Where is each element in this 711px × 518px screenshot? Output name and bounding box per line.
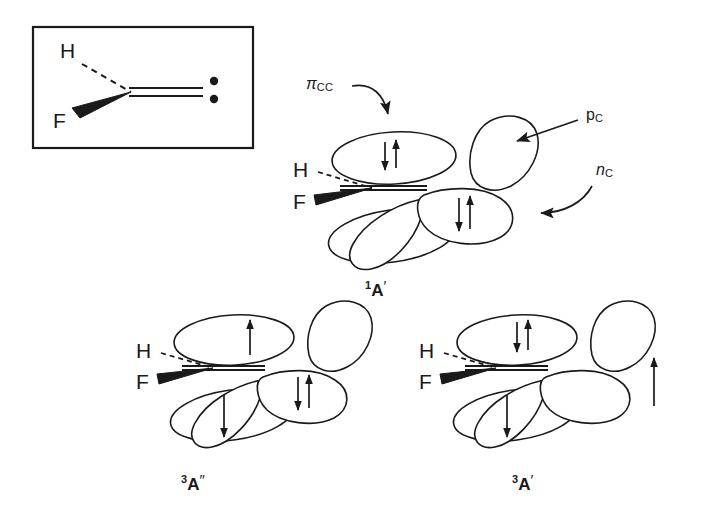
s2-atom-F: F (136, 371, 149, 392)
structure-1A-prime-artwork (314, 116, 538, 271)
inset-atom-F: F (53, 110, 66, 131)
s1-prime: ′ (383, 277, 385, 294)
pi-symbol: π (306, 75, 317, 92)
s2-prime: ″ (199, 471, 204, 488)
figure-artwork (0, 0, 711, 518)
structure-3A-prime-artwork (440, 301, 655, 448)
lone-pair-dot (210, 77, 218, 85)
molecular-orbital-figure: H F πCC pC nC H F 1A′ H F 3A″ H F 3A′ (0, 0, 711, 518)
pi-subscript: CC (317, 81, 334, 93)
s1-atom-H: H (293, 159, 308, 180)
orbital-label-n-c: nC (596, 162, 613, 179)
orbital-label-pi-cc: πCC (306, 76, 333, 93)
s3-atom-H: H (419, 340, 434, 361)
s3-atom-F: F (419, 371, 432, 392)
state-label-3A-prime: 3A′ (512, 472, 533, 493)
orbital-lobe-pC (591, 301, 655, 371)
s2-term: A (187, 475, 199, 494)
orbital-label-p-c: pC (586, 107, 603, 124)
pointer-nC (541, 186, 592, 213)
s3-prime: ′ (530, 471, 532, 488)
structure-3A-double-prime-artwork (157, 301, 372, 448)
inset-atom-H: H (60, 40, 75, 61)
state-label-3A-double-prime: 3A″ (181, 472, 204, 493)
n-subscript: C (605, 167, 613, 179)
s3-term: A (518, 475, 530, 494)
n-symbol: n (596, 161, 605, 178)
orbital-lobe-piCC (173, 312, 295, 368)
orbital-lobe-pC (308, 301, 372, 371)
s1-atom-F: F (293, 191, 306, 212)
s1-term: A (371, 281, 383, 300)
pointer-piCC (352, 85, 388, 114)
lone-pair-dot (210, 95, 218, 103)
p-symbol: p (586, 106, 595, 123)
orbital-lobe-piCC (331, 129, 458, 187)
p-subscript: C (595, 112, 603, 124)
orbital-lobe-pC (470, 116, 538, 190)
s2-atom-H: H (136, 340, 151, 361)
state-label-1A-prime: 1A′ (365, 278, 386, 299)
